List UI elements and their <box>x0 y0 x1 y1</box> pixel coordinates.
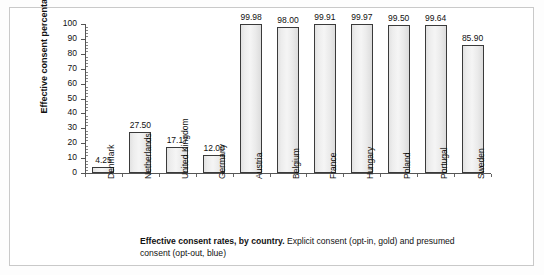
y-minor-tick-mark <box>86 36 88 37</box>
y-minor-tick-mark <box>86 152 88 153</box>
x-axis-category-label: United Kingdom <box>181 119 190 179</box>
x-axis-category-label: Poland <box>403 153 412 179</box>
x-axis-category-label: Hungary <box>366 147 375 179</box>
y-minor-tick-mark <box>86 101 88 102</box>
y-tick-mark <box>81 128 85 129</box>
y-tick-label: 0 <box>51 168 77 177</box>
y-minor-tick-mark <box>86 72 88 73</box>
y-minor-tick-mark <box>86 104 88 105</box>
y-minor-tick-mark <box>86 116 88 117</box>
bar <box>388 25 410 173</box>
x-axis-category-label: Belgium <box>292 148 301 179</box>
y-tick-label: 20 <box>51 138 77 147</box>
x-axis-category-label: Germany <box>218 144 227 179</box>
bar-value-label: 99.97 <box>342 12 382 22</box>
y-minor-tick-mark <box>86 66 88 67</box>
y-minor-tick-mark <box>86 60 88 61</box>
y-minor-tick-mark <box>86 119 88 120</box>
y-tick-mark <box>81 69 85 70</box>
x-tick-mark <box>306 174 307 177</box>
y-minor-tick-mark <box>86 122 88 123</box>
y-minor-tick-mark <box>86 42 88 43</box>
y-tick-mark <box>81 24 85 25</box>
y-tick-mark <box>81 84 85 85</box>
x-tick-mark <box>343 174 344 177</box>
x-axis-category-label: Portugal <box>440 147 449 179</box>
bar-value-label: 12.00 <box>194 143 234 153</box>
y-minor-tick-mark <box>86 149 88 150</box>
bar-value-label: 4.25 <box>83 155 123 165</box>
x-tick-mark <box>85 174 86 177</box>
y-minor-tick-mark <box>86 48 88 49</box>
bar-value-label: 27.50 <box>120 120 160 130</box>
y-minor-tick-mark <box>86 96 88 97</box>
figure-caption: Effective consent rates, by country. Exp… <box>140 236 470 259</box>
y-tick-mark <box>81 99 85 100</box>
y-minor-tick-mark <box>86 30 88 31</box>
y-minor-tick-mark <box>86 63 88 64</box>
caption-lead: Effective consent rates, by country. <box>140 236 285 246</box>
x-tick-mark <box>196 174 197 177</box>
x-tick-mark <box>454 174 455 177</box>
y-tick-mark <box>81 54 85 55</box>
y-minor-tick-mark <box>86 134 88 135</box>
y-minor-tick-mark <box>86 107 88 108</box>
x-axis-category-label: Austria <box>255 153 264 179</box>
y-tick-label: 70 <box>51 64 77 73</box>
y-tick-label: 30 <box>51 123 77 132</box>
y-minor-tick-mark <box>86 27 88 28</box>
y-tick-mark <box>81 39 85 40</box>
y-minor-tick-mark <box>86 33 88 34</box>
x-tick-mark <box>380 174 381 177</box>
y-axis-title: Effective consent percentage <box>39 0 49 131</box>
y-tick-label: 100 <box>51 19 77 28</box>
x-axis-category-label: Netherlands <box>144 133 153 179</box>
y-tick-label: 60 <box>51 79 77 88</box>
x-tick-mark <box>417 174 418 177</box>
bar-value-label: 17.17 <box>157 135 197 145</box>
x-tick-mark <box>159 174 160 177</box>
y-minor-tick-mark <box>86 137 88 138</box>
y-minor-tick-mark <box>86 125 88 126</box>
y-minor-tick-mark <box>86 75 88 76</box>
y-tick-label: 10 <box>51 153 77 162</box>
bar-value-label: 99.91 <box>305 12 345 22</box>
y-minor-tick-mark <box>86 140 88 141</box>
y-minor-tick-mark <box>86 81 88 82</box>
y-minor-tick-mark <box>86 87 88 88</box>
y-minor-tick-mark <box>86 57 88 58</box>
y-minor-tick-mark <box>86 45 88 46</box>
y-minor-tick-mark <box>86 167 88 168</box>
y-tick-mark <box>81 113 85 114</box>
y-tick-label: 80 <box>51 49 77 58</box>
bar-value-label: 85.90 <box>453 33 493 43</box>
y-tick-label: 40 <box>51 108 77 117</box>
bar <box>314 24 336 173</box>
bar-value-label: 99.64 <box>416 13 456 23</box>
x-tick-mark <box>491 174 492 177</box>
y-minor-tick-mark <box>86 93 88 94</box>
x-axis-category-label: Sweden <box>477 148 486 179</box>
y-minor-tick-mark <box>86 110 88 111</box>
bar-value-label: 98.00 <box>268 15 308 25</box>
y-minor-tick-mark <box>86 146 88 147</box>
bar-value-label: 99.50 <box>379 13 419 23</box>
x-tick-mark <box>233 174 234 177</box>
x-axis-category-label: Denmark <box>107 145 116 179</box>
y-tick-label: 50 <box>51 94 77 103</box>
y-minor-tick-mark <box>86 78 88 79</box>
y-minor-tick-mark <box>86 51 88 52</box>
x-tick-mark <box>122 174 123 177</box>
figure-container: Effective consent percentage 01020304050… <box>0 0 544 275</box>
x-tick-mark <box>270 174 271 177</box>
y-tick-mark <box>81 143 85 144</box>
y-tick-label: 90 <box>51 34 77 43</box>
y-minor-tick-mark <box>86 90 88 91</box>
x-axis-category-label: France <box>329 153 338 179</box>
y-minor-tick-mark <box>86 131 88 132</box>
y-minor-tick-mark <box>86 170 88 171</box>
bar <box>240 24 262 173</box>
chart-plot-area: Effective consent percentage 01020304050… <box>0 0 544 275</box>
bar-value-label: 99.98 <box>231 12 271 22</box>
